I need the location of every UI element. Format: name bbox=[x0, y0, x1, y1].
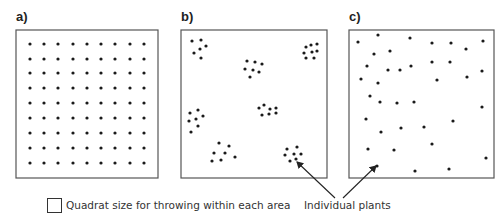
plant-dot bbox=[85, 42, 88, 45]
plant-dot bbox=[187, 119, 190, 122]
plant-dot bbox=[128, 131, 131, 134]
plant-dot bbox=[128, 161, 131, 164]
plant-dot bbox=[294, 157, 297, 160]
plant-dot bbox=[285, 147, 288, 150]
plant-dot bbox=[99, 146, 102, 149]
plant-dot bbox=[386, 68, 389, 71]
plant-dot bbox=[99, 57, 102, 60]
plant-dot bbox=[233, 155, 236, 158]
plant-dot bbox=[28, 86, 31, 89]
plant-dot bbox=[99, 131, 102, 134]
plant-dot bbox=[392, 148, 395, 151]
plant-dot bbox=[42, 86, 45, 89]
panel-c-random bbox=[349, 30, 494, 178]
plant-dot bbox=[196, 108, 199, 111]
plant-dot bbox=[99, 42, 102, 45]
plant-dot bbox=[412, 100, 415, 103]
plant-dot bbox=[188, 111, 191, 114]
plant-dot bbox=[71, 101, 74, 104]
plant-dot bbox=[201, 114, 204, 117]
plant-dot bbox=[268, 107, 271, 110]
plant-dot bbox=[128, 116, 131, 119]
plant-dot bbox=[480, 69, 483, 72]
plant-dot bbox=[192, 51, 195, 54]
plant-dot bbox=[113, 146, 116, 149]
plant-dot bbox=[368, 94, 371, 97]
plant-dot bbox=[42, 161, 45, 164]
plant-dot bbox=[28, 116, 31, 119]
plant-dot bbox=[413, 169, 416, 172]
plant-dot bbox=[142, 161, 145, 164]
plant-dot bbox=[99, 101, 102, 104]
plant-dot bbox=[304, 56, 307, 59]
plant-dot bbox=[28, 161, 31, 164]
distribution-diagram bbox=[0, 0, 504, 222]
plant-dot bbox=[451, 119, 454, 122]
plant-dot bbox=[260, 62, 263, 65]
plant-dot bbox=[481, 39, 484, 42]
plant-dot bbox=[56, 101, 59, 104]
plant-dot bbox=[142, 86, 145, 89]
plant-dot bbox=[449, 41, 452, 44]
plant-dot bbox=[315, 42, 318, 45]
plant-dot bbox=[128, 101, 131, 104]
plant-dot bbox=[262, 103, 265, 106]
plant-dot bbox=[85, 131, 88, 134]
plant-dot bbox=[212, 151, 215, 154]
plant-dot bbox=[243, 67, 246, 70]
plant-dot bbox=[128, 146, 131, 149]
plant-dot bbox=[142, 42, 145, 45]
plant-dot bbox=[42, 57, 45, 60]
plant-dot bbox=[113, 71, 116, 74]
plant-dot bbox=[399, 126, 402, 129]
plant-dot bbox=[260, 113, 263, 116]
plant-dot bbox=[28, 42, 31, 45]
plant-dot bbox=[99, 86, 102, 89]
plant-dot bbox=[142, 101, 145, 104]
plant-dot bbox=[194, 117, 197, 120]
plant-dot bbox=[484, 156, 487, 159]
plant-dot bbox=[257, 70, 260, 73]
plant-dot bbox=[312, 56, 315, 59]
plant-dot bbox=[366, 147, 369, 150]
plant-dot bbox=[71, 116, 74, 119]
plant-dot bbox=[113, 161, 116, 164]
panel-a-uniform bbox=[16, 30, 158, 178]
plant-dot bbox=[219, 158, 222, 161]
plant-dot bbox=[376, 81, 379, 84]
plant-dot bbox=[267, 112, 270, 115]
quadrat-size-square bbox=[47, 198, 62, 213]
plant-dot bbox=[99, 116, 102, 119]
plant-dot bbox=[85, 86, 88, 89]
plant-dot bbox=[85, 116, 88, 119]
plant-dot bbox=[199, 38, 202, 41]
plant-dot bbox=[309, 43, 312, 46]
plant-dot bbox=[245, 59, 248, 62]
plant-dot bbox=[113, 116, 116, 119]
plant-dot bbox=[56, 161, 59, 164]
plant-dot bbox=[42, 131, 45, 134]
plant-dot bbox=[85, 71, 88, 74]
plant-dot bbox=[71, 42, 74, 45]
plant-dot bbox=[310, 50, 313, 53]
plant-dot bbox=[398, 68, 401, 71]
plant-dot bbox=[227, 144, 230, 147]
plant-dot bbox=[464, 47, 467, 50]
plant-dot bbox=[190, 39, 193, 42]
plant-dot bbox=[142, 131, 145, 134]
plant-dot bbox=[28, 71, 31, 74]
panel-border bbox=[349, 30, 494, 178]
plant-dot bbox=[56, 131, 59, 134]
plant-dot bbox=[71, 161, 74, 164]
plant-dot bbox=[395, 101, 398, 104]
arrow-pointer bbox=[297, 162, 335, 198]
plant-dot bbox=[42, 71, 45, 74]
plant-dot bbox=[189, 130, 192, 133]
plant-dot bbox=[198, 47, 201, 50]
plant-dot bbox=[288, 159, 291, 162]
plant-dot bbox=[142, 71, 145, 74]
plant-dot bbox=[408, 36, 411, 39]
plant-dot bbox=[448, 60, 451, 63]
plant-dot bbox=[28, 101, 31, 104]
plant-dot bbox=[388, 49, 391, 52]
